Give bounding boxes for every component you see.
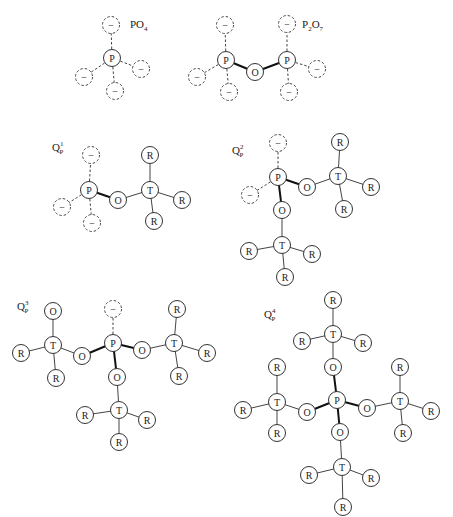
atom-symbol: R (18, 348, 25, 359)
atom-symbol: R (337, 137, 344, 148)
atom-tetrahedral: T (392, 393, 409, 410)
atom-oxygen: O (274, 202, 291, 219)
atom-charge: − (107, 83, 124, 100)
atom-tetrahedral: T (142, 182, 159, 199)
atom-charge: − (309, 61, 326, 78)
atom-symbol: O (78, 351, 85, 362)
atom-symbol: − (226, 87, 232, 98)
atom-symbol: T (116, 405, 122, 416)
atom-phosphorus: P (329, 392, 346, 409)
atom-symbol: − (194, 72, 200, 83)
atom-substituent: R (423, 403, 440, 420)
atom-symbol: − (81, 72, 87, 83)
atom-substituent: R (48, 370, 65, 387)
atom-substituent: R (294, 333, 311, 350)
atom-symbol: O (278, 205, 285, 216)
atom-oxygen: O (110, 192, 127, 209)
atom-charge: − (242, 187, 259, 204)
atom-symbol: − (286, 87, 292, 98)
atom-symbol: T (147, 185, 153, 196)
structure-label-p2o7: P2O7 (302, 18, 324, 33)
atom-tetrahedral: T (45, 337, 62, 354)
atom-tetrahedral: T (111, 402, 128, 419)
atom-substituent: R (336, 201, 353, 218)
atom-oxygen: O (325, 359, 342, 376)
atom-charge: − (221, 84, 238, 101)
atom-oxygen: O (299, 404, 316, 421)
atom-symbol: R (179, 195, 186, 206)
atom-substituent: R (13, 345, 30, 362)
atom-symbol: P (109, 53, 115, 64)
atom-symbol: R (330, 295, 337, 306)
atom-substituent: R (304, 246, 321, 263)
atom-symbol: O (138, 345, 145, 356)
atom-symbol: O (49, 306, 56, 317)
atom-charge: − (84, 215, 101, 232)
structure-q2p-atoms: P−−OTRRROTRRR (241, 134, 380, 286)
atom-charge: − (279, 16, 296, 33)
atom-phosphorus: P (270, 169, 287, 186)
atom-substituent: R (325, 292, 342, 309)
atom-symbol: − (222, 20, 228, 31)
atom-symbol: − (112, 86, 118, 97)
atom-substituent: R (142, 147, 159, 164)
atom-symbol: R (147, 150, 154, 161)
atom-symbol: O (336, 427, 343, 438)
atom-symbol: T (171, 338, 177, 349)
atom-symbol: R (360, 338, 367, 349)
atom-substituent: R (332, 134, 349, 151)
atom-symbol: − (89, 218, 95, 229)
atom-oxygen: O (45, 303, 62, 320)
atom-symbol: − (88, 150, 94, 161)
atom-symbol: T (397, 396, 403, 407)
atom-substituent: R (199, 345, 216, 362)
atom-phosphorus: P (104, 50, 121, 67)
atom-symbol: P (110, 338, 116, 349)
atom-symbol: R (240, 405, 247, 416)
atom-tetrahedral: T (325, 326, 342, 343)
atom-substituent: R (335, 499, 352, 516)
atom-charge: − (270, 135, 287, 152)
atom-symbol: R (176, 371, 183, 382)
atom-substituent: R (363, 470, 380, 487)
atom-substituent: R (111, 434, 128, 451)
atom-symbol: R (246, 246, 253, 257)
atom-tetrahedral: T (330, 168, 347, 185)
atom-symbol: T (50, 340, 56, 351)
atom-charge: − (281, 84, 298, 101)
atom-substituent: R (235, 402, 252, 419)
atom-phosphorus: P (279, 52, 296, 69)
structure-q1p-bonds (62, 155, 182, 223)
atom-substituent: R (146, 213, 163, 230)
atom-oxygen: O (359, 400, 376, 417)
atom-symbol: R (400, 428, 407, 439)
structure-q1p-atoms: P−−−OTRRR (54, 147, 191, 232)
atom-charge: − (54, 199, 71, 216)
atom-symbol: R (340, 502, 347, 513)
atom-symbol: O (113, 372, 120, 383)
atom-symbol: − (110, 304, 116, 315)
atom-phosphorus: P (218, 52, 235, 69)
atom-symbol: P (223, 55, 229, 66)
atom-symbol: − (314, 64, 320, 75)
atom-substituent: R (392, 359, 409, 376)
atom-symbol: R (82, 410, 89, 421)
atom-substituent: R (241, 243, 258, 260)
nodes-layer: P−−−−POP−−−−−−P−−−OTRRRP−−OTRRROTRRRP−OT… (13, 16, 440, 516)
atom-oxygen: O (299, 179, 316, 196)
atom-symbol: R (368, 182, 375, 193)
atom-symbol: T (330, 329, 336, 340)
atom-symbol: T (274, 397, 280, 408)
atom-symbol: R (368, 473, 375, 484)
atom-substituent: R (269, 359, 286, 376)
atom-substituent: R (363, 179, 380, 196)
atom-symbol: R (204, 348, 211, 359)
atom-symbol: R (274, 362, 281, 373)
atom-symbol: T (335, 171, 341, 182)
atom-substituent: R (171, 368, 188, 385)
phosphate-connectivity-diagram: P−−−−POP−−−−−−P−−−OTRRRP−−OTRRROTRRRP−OT… (0, 0, 453, 517)
atom-oxygen: O (74, 348, 91, 365)
structure-label-q4p: Q4P (264, 307, 276, 323)
atom-substituent: R (395, 425, 412, 442)
atom-oxygen: O (332, 424, 349, 441)
